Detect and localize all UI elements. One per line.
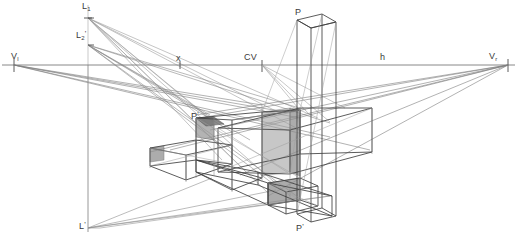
- shaded-faces: [150, 108, 300, 205]
- label-point-bottom: P': [296, 224, 304, 233]
- label-light-1: L1: [82, 2, 91, 11]
- label-horizon: h: [380, 53, 385, 62]
- label-station-x: x: [176, 54, 181, 63]
- label-vanish-right: Vr: [489, 52, 497, 61]
- convergence-lines-left-vp: [14, 65, 370, 150]
- label-point-mid: P': [191, 112, 199, 121]
- label-point-top: P: [295, 8, 301, 17]
- label-light-2: L2': [76, 31, 87, 40]
- label-center-of-vision: CV: [244, 53, 257, 62]
- label-vanish-left: Vl: [11, 52, 19, 61]
- plan-construction-lines: [88, 65, 372, 232]
- perspective-drawing-canvas: Vl Vr CV h x L1 L2' L' P P' P': [0, 0, 517, 247]
- label-light-ground: L': [79, 222, 86, 231]
